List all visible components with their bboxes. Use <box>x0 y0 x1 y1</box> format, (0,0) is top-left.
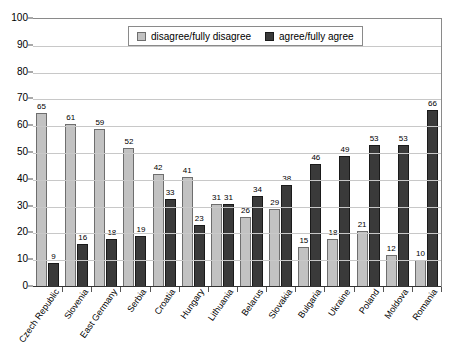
bar-value-label: 41 <box>179 167 196 175</box>
gridline <box>33 73 441 74</box>
y-tick-mark <box>28 232 33 233</box>
x-axis-label-text: Ukraine <box>326 287 352 318</box>
y-tick-label: 20 <box>17 227 28 237</box>
x-axis-label-text: Romania <box>411 287 440 322</box>
bar-value-label: 61 <box>62 114 79 122</box>
bar <box>398 145 409 287</box>
gridline <box>33 207 441 208</box>
gridline <box>33 99 441 100</box>
bar <box>165 199 176 287</box>
gridline <box>33 153 441 154</box>
bar <box>310 164 321 287</box>
y-tick-mark <box>28 71 33 72</box>
legend-swatch-icon <box>265 32 274 41</box>
legend-swatch-icon <box>137 32 146 41</box>
x-axis-label-text: Lithuania <box>206 287 235 323</box>
y-tick-mark <box>28 178 33 179</box>
bar-value-label: 34 <box>249 186 266 194</box>
bar-value-label: 65 <box>33 103 50 111</box>
x-axis-label-text: Czech Republic <box>16 287 60 344</box>
x-axis-label-text: Serbia <box>125 287 148 314</box>
y-tick-mark <box>28 44 33 45</box>
gridline <box>33 233 441 234</box>
x-axis-category-labels: Czech RepublicSloveniaEast GermanySerbia… <box>33 287 441 357</box>
bar-value-label: 52 <box>120 138 137 146</box>
bar-value-label: 23 <box>191 215 208 223</box>
y-tick-label: 40 <box>17 174 28 184</box>
y-tick-mark <box>28 98 33 99</box>
bar-value-label: 31 <box>220 194 237 202</box>
y-tick-mark <box>28 152 33 153</box>
bar-value-label: 46 <box>307 154 324 162</box>
bar-value-label: 33 <box>162 189 179 197</box>
y-tick-label: 90 <box>17 40 28 50</box>
x-axis-label-text: Bulgaria <box>296 287 323 320</box>
y-tick-mark <box>28 259 33 260</box>
bar <box>281 185 292 287</box>
bar-value-label: 53 <box>366 135 383 143</box>
y-tick-label: 50 <box>17 147 28 157</box>
x-axis-label-text: Croatia <box>152 287 177 317</box>
x-axis-label-text: Slovenia <box>62 287 90 321</box>
bar-value-label: 53 <box>395 135 412 143</box>
bar-chart: 0102030405060708090100 65961165918521942… <box>0 0 450 357</box>
y-tick-label: 60 <box>17 120 28 130</box>
x-axis-label-text: Hungary <box>179 287 207 321</box>
x-axis-label-text: Moldova <box>383 287 411 321</box>
y-tick-mark <box>28 18 33 19</box>
y-tick-label: 100 <box>11 13 28 23</box>
bar <box>252 196 263 287</box>
x-axis-label-text: Poland <box>357 287 381 316</box>
legend-item[interactable]: disagree/fully disagree <box>137 31 251 42</box>
gridline <box>33 126 441 127</box>
y-tick-label: 70 <box>17 93 28 103</box>
bar <box>223 204 234 287</box>
legend-label: agree/fully agree <box>279 31 354 42</box>
y-tick-label: 80 <box>17 67 28 77</box>
y-axis: 0102030405060708090100 <box>0 18 28 286</box>
y-tick-mark <box>28 125 33 126</box>
gridline <box>33 260 441 261</box>
bar-value-label: 66 <box>424 100 441 108</box>
y-tick-mark <box>28 205 33 206</box>
y-tick-label: 10 <box>17 254 28 264</box>
y-tick-mark <box>28 286 33 287</box>
x-axis-label-text: Slovakia <box>266 287 294 321</box>
y-tick-label: 30 <box>17 201 28 211</box>
bar <box>339 156 350 287</box>
bar-value-label: 42 <box>150 164 167 172</box>
plot-area: 6596116591852194233412331312634293815461… <box>33 18 442 287</box>
legend-label: disagree/fully disagree <box>151 31 251 42</box>
gridline <box>33 180 441 181</box>
legend-item[interactable]: agree/fully agree <box>265 31 354 42</box>
chart-legend: disagree/fully disagreeagree/fully agree <box>128 26 363 46</box>
bar <box>369 145 380 287</box>
x-axis-label-text: Belarus <box>239 287 265 318</box>
